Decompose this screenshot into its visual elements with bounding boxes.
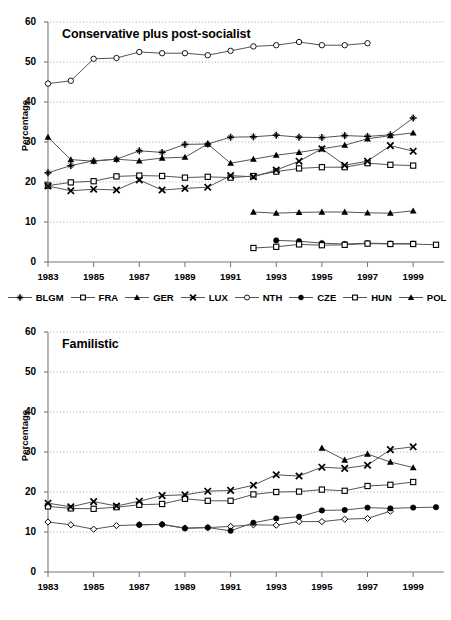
- legend-item-pol[interactable]: POL: [398, 292, 447, 303]
- data-point-open-square: [182, 175, 187, 180]
- legend-label: GER: [153, 292, 174, 303]
- series-line: [48, 42, 368, 84]
- legend-marker-filled-triangle: [124, 292, 150, 303]
- data-point-open-square: [319, 165, 324, 170]
- legend-label: BLGM: [36, 292, 64, 303]
- data-point-open-diamond: [342, 516, 348, 522]
- x-axis-tick-label: 1995: [305, 582, 339, 592]
- series-line: [48, 511, 390, 529]
- y-axis-label-top: Percentage: [19, 81, 30, 171]
- y-axis-tick-label: 20: [14, 487, 36, 497]
- data-point-open-square: [228, 498, 233, 503]
- legend-item-hun[interactable]: HUN: [342, 292, 392, 303]
- legend-label: FRA: [99, 292, 119, 303]
- data-point-open-square: [205, 174, 210, 179]
- data-point-open-circle: [296, 39, 301, 44]
- data-point-open-circle: [159, 51, 164, 56]
- data-point-open-square: [365, 483, 370, 488]
- data-point-filled-triangle: [410, 129, 417, 135]
- data-point-plus: [318, 134, 325, 141]
- data-point-filled-triangle: [45, 134, 52, 140]
- data-point-open-square: [160, 173, 165, 178]
- series-nth: [45, 39, 370, 86]
- legend-item-cze[interactable]: CZE: [288, 292, 336, 303]
- data-point-open-circle: [319, 43, 324, 48]
- data-point-filled-circle: [228, 528, 233, 533]
- data-point-open-diamond: [68, 522, 74, 528]
- y-axis-tick-label: 30: [14, 447, 36, 457]
- plot-area-bottom: [0, 310, 451, 620]
- data-point-open-square: [353, 295, 358, 300]
- data-point-filled-triangle: [318, 445, 325, 451]
- y-axis-tick-label: 0: [14, 257, 36, 267]
- data-point-plus: [16, 294, 22, 300]
- data-point-open-circle: [91, 56, 96, 61]
- legend-top: BLGMFRAGERLUXNTHCZEHUNPOL: [0, 292, 451, 303]
- legend-label: HUN: [371, 292, 392, 303]
- data-point-open-square: [365, 241, 370, 246]
- data-point-filled-circle: [137, 522, 142, 527]
- data-point-open-square: [160, 501, 165, 506]
- data-point-open-diamond: [364, 515, 370, 521]
- legend-label: LUX: [209, 292, 228, 303]
- data-point-filled-circle: [274, 238, 279, 243]
- data-point-filled-circle: [299, 295, 304, 300]
- legend-item-fra[interactable]: FRA: [70, 292, 119, 303]
- data-point-open-circle: [182, 51, 187, 56]
- data-point-open-square: [205, 498, 210, 503]
- data-point-filled-circle: [251, 520, 256, 525]
- data-point-filled-circle: [274, 516, 279, 521]
- y-axis-tick-label: 10: [14, 527, 36, 537]
- x-axis-tick-label: 1991: [214, 272, 248, 282]
- x-axis-tick-label: 1983: [31, 272, 65, 282]
- series-greece: [45, 508, 394, 532]
- data-point-filled-circle: [159, 522, 164, 527]
- data-point-open-square: [388, 162, 393, 167]
- data-point-open-square: [296, 242, 301, 247]
- data-point-filled-triangle: [410, 207, 417, 213]
- data-point-cross-x: [296, 158, 302, 164]
- data-point-open-circle: [45, 81, 50, 86]
- legend-item-blgm[interactable]: BLGM: [7, 292, 64, 303]
- legend-item-ger[interactable]: GER: [124, 292, 174, 303]
- data-point-plus: [136, 147, 143, 154]
- data-point-open-square: [68, 180, 73, 185]
- data-point-filled-circle: [319, 508, 324, 513]
- data-point-plus: [227, 134, 234, 141]
- data-point-open-circle: [244, 295, 249, 300]
- legend-item-lux[interactable]: LUX: [180, 292, 228, 303]
- series-spain: [137, 505, 439, 534]
- y-axis-tick-label: 50: [14, 57, 36, 67]
- data-point-filled-circle: [388, 506, 393, 511]
- y-axis-tick-label: 60: [14, 327, 36, 337]
- series-line: [48, 482, 413, 509]
- legend-marker-plus: [7, 292, 33, 303]
- data-point-open-diamond: [319, 519, 325, 525]
- legend-marker-open-square: [70, 292, 96, 303]
- data-point-open-square: [411, 163, 416, 168]
- data-point-open-square: [114, 174, 119, 179]
- data-point-open-square: [388, 482, 393, 487]
- data-point-cross-x: [387, 142, 393, 148]
- data-point-open-circle: [251, 44, 256, 49]
- chart-title-top: Conservative plus post-socialist: [62, 27, 251, 41]
- legend-marker-open-circle: [234, 292, 260, 303]
- series-line: [48, 146, 413, 191]
- y-axis-tick-label: 60: [14, 17, 36, 27]
- data-point-plus: [67, 162, 74, 169]
- x-axis-tick-label: 1985: [77, 272, 111, 282]
- data-point-open-square: [388, 241, 393, 246]
- series-hun: [251, 241, 439, 251]
- series-italy: [45, 479, 415, 511]
- data-point-filled-circle: [205, 525, 210, 530]
- y-axis-tick-label: 50: [14, 367, 36, 377]
- y-axis-tick-label: 0: [14, 567, 36, 577]
- legend-label: CZE: [317, 292, 336, 303]
- data-point-open-circle: [68, 78, 73, 83]
- legend-item-nth[interactable]: NTH: [234, 292, 283, 303]
- legend-marker-cross-x: [180, 292, 206, 303]
- data-point-open-square: [251, 492, 256, 497]
- data-point-open-circle: [114, 55, 119, 60]
- data-point-open-square: [274, 489, 279, 494]
- data-point-open-square: [411, 479, 416, 484]
